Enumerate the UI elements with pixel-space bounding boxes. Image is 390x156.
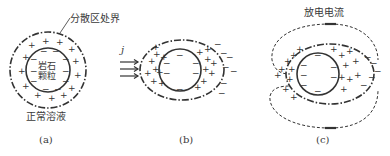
svg-text:+: + <box>340 84 348 94</box>
svg-text:+: + <box>48 93 56 103</box>
diagram-canvas: ++++ ++++ +++++ −−− −−− −−−− ++++ +++++ … <box>0 0 390 156</box>
svg-text:+: + <box>338 50 346 60</box>
svg-text:+: + <box>352 56 360 66</box>
caption-a: (a) <box>39 135 53 145</box>
svg-text:+: + <box>34 90 42 100</box>
svg-text:+: + <box>346 46 354 56</box>
panel-c-graphic: +++++ ++++ +++++++++ −−−−− −−−−−−− <box>270 24 382 128</box>
svg-text:−: − <box>40 46 48 56</box>
svg-text:−: − <box>52 46 60 56</box>
svg-text:−: − <box>300 70 308 80</box>
svg-text:−: − <box>300 60 308 70</box>
svg-text:+: + <box>158 78 166 88</box>
solution-label: 正常溶液 <box>26 112 66 122</box>
svg-text:+: + <box>22 81 30 91</box>
svg-text:−: − <box>226 52 234 62</box>
svg-text:+: + <box>338 72 346 82</box>
svg-text:+: + <box>354 70 362 80</box>
svg-text:−: − <box>330 62 338 72</box>
svg-text:−: − <box>176 50 184 60</box>
svg-text:+: + <box>194 82 202 92</box>
diagram-graphics: ++++ ++++ +++++ −−− −−− −−−− ++++ +++++ … <box>0 0 390 156</box>
svg-text:+: + <box>274 70 282 80</box>
svg-text:+: + <box>288 64 296 74</box>
svg-text:+: + <box>342 60 350 70</box>
svg-text:+: + <box>210 58 218 68</box>
particle-label-line2: 颗粒 <box>38 72 56 81</box>
svg-text:+: + <box>74 70 82 80</box>
svg-text:−: − <box>62 54 70 64</box>
svg-text:+: + <box>296 44 304 54</box>
svg-text:−: − <box>220 78 228 88</box>
svg-text:−: − <box>62 76 70 86</box>
caption-b: (b) <box>179 135 193 145</box>
svg-text:+: + <box>152 42 160 52</box>
particle-label-line1: 岩石 <box>38 62 56 71</box>
svg-text:−: − <box>230 66 238 76</box>
svg-text:−: − <box>176 84 184 94</box>
svg-text:−: − <box>62 66 70 76</box>
svg-text:−: − <box>163 68 171 78</box>
svg-text:−: − <box>360 80 368 90</box>
svg-text:−: − <box>222 62 230 72</box>
svg-text:−: − <box>300 80 308 90</box>
svg-text:+: + <box>28 40 36 50</box>
svg-text:−: − <box>163 58 171 68</box>
svg-text:+: + <box>42 36 50 46</box>
svg-text:+: + <box>18 66 26 76</box>
svg-text:+: + <box>282 84 290 94</box>
svg-text:−: − <box>30 54 38 64</box>
svg-text:+: + <box>150 76 158 86</box>
panel-b-graphic: ++++ +++++ ++++++++ −−−−−−− −−−−−− <box>120 39 238 100</box>
svg-text:−: − <box>30 76 38 86</box>
svg-text:−: − <box>192 58 200 68</box>
caption-c: (c) <box>316 135 329 145</box>
svg-text:−: − <box>30 66 38 76</box>
svg-text:−: − <box>42 84 50 94</box>
svg-text:+: + <box>346 74 354 84</box>
discharge-label: 放电电流 <box>304 8 344 18</box>
svg-text:+: + <box>286 74 294 84</box>
svg-text:+: + <box>290 92 298 102</box>
svg-text:−: − <box>314 86 322 96</box>
svg-text:−: − <box>330 72 338 82</box>
svg-text:+: + <box>208 68 216 78</box>
svg-text:−: − <box>192 68 200 78</box>
svg-text:−: − <box>218 88 226 98</box>
current-symbol: j <box>121 45 124 55</box>
svg-text:−: − <box>314 50 322 60</box>
svg-text:+: + <box>330 44 338 54</box>
svg-text:+: + <box>204 44 212 54</box>
svg-text:+: + <box>196 47 204 57</box>
svg-text:+: + <box>68 44 76 54</box>
svg-text:−: − <box>368 72 376 82</box>
svg-text:+: + <box>72 56 80 66</box>
svg-text:+: + <box>22 52 30 62</box>
boundary-label: 分散区处界 <box>70 14 120 24</box>
svg-text:−: − <box>54 84 62 94</box>
